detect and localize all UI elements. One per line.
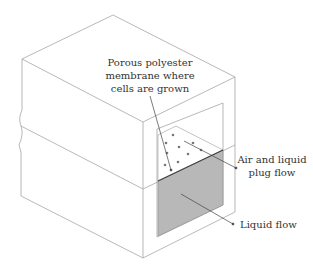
label-air-liquid-1: Air and liquid [236, 154, 307, 165]
label-liquid-flow: Liquid flow [240, 219, 297, 230]
label-membrane-2: membrane where [105, 70, 194, 81]
label-membrane-1: Porous polyester [108, 57, 193, 68]
label-membrane-3: cells are grown [111, 83, 190, 94]
label-air-liquid-2: plug flow [249, 167, 296, 178]
top-face [22, 15, 235, 122]
channel-diagram: Porous polyester membrane where cells ar… [0, 0, 313, 267]
block-outline [19, 15, 235, 258]
wavy-break-edge [19, 59, 22, 196]
